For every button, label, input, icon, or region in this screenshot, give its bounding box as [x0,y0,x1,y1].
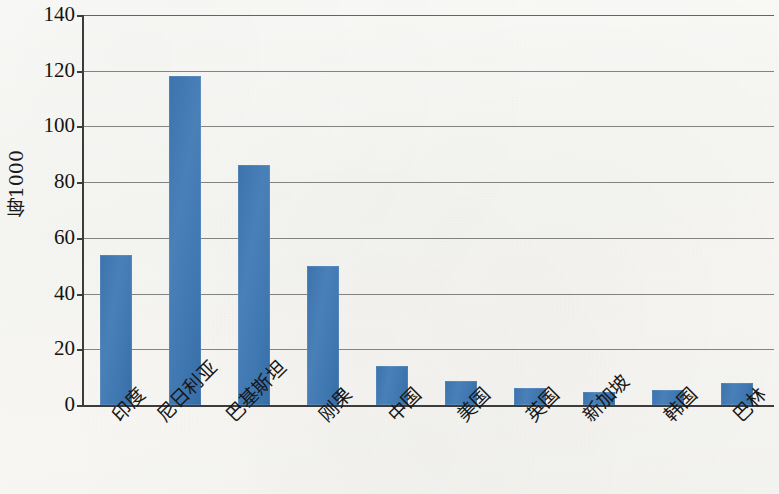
y-tick-label: 100 [44,113,76,138]
bar [169,76,201,405]
y-tick-mark [77,182,84,184]
y-tick-label: 140 [44,2,76,27]
y-tick-mark [77,15,84,17]
y-tick-mark [77,349,84,351]
y-tick-mark [77,71,84,73]
y-tick-label: 0 [65,392,76,417]
plot-area: 020406080100120140 [82,15,774,407]
y-axis-title: 每1000 [2,150,38,217]
bar-chart-figure: 每1000 020406080100120140 印度尼日利亚巴基斯坦刚果中国美… [0,0,779,494]
y-tick-label: 80 [54,169,75,194]
y-tick-label: 120 [44,57,76,82]
bar-series [84,15,774,405]
y-tick-label: 60 [54,224,75,249]
y-tick-label: 40 [54,280,75,305]
y-tick-mark [77,126,84,128]
x-axis-labels: 印度尼日利亚巴基斯坦刚果中国美国英国新加坡韩国巴林 [82,407,772,494]
y-tick-label: 20 [54,336,75,361]
y-tick-mark [77,238,84,240]
y-tick-mark [77,294,84,296]
